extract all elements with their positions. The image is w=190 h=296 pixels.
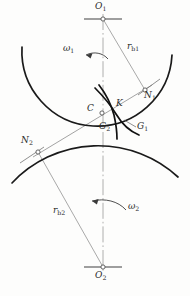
label-g2: G2 <box>99 122 110 131</box>
label-k: K <box>116 99 123 108</box>
omega2-rotation-arrow <box>92 199 126 210</box>
omega1-rotation-arrow <box>86 53 108 59</box>
label-n2: N2 <box>21 136 33 145</box>
label-omega1: ω1 <box>63 44 74 53</box>
point-marker-o1 <box>101 17 105 21</box>
diagram-canvas <box>0 0 190 296</box>
base-radius-lines <box>38 19 145 267</box>
radius-line-rb1 <box>103 19 145 90</box>
label-omega2: ω2 <box>128 202 139 211</box>
label-o1: O1 <box>95 2 106 11</box>
radius-line-rb2 <box>38 152 103 267</box>
label-g1: G1 <box>137 122 148 131</box>
point-marker-n2 <box>36 150 40 154</box>
label-rb1: rb1 <box>127 42 139 51</box>
label-c: C <box>87 104 94 113</box>
label-o2: O2 <box>95 271 106 280</box>
omega2-arrow-head <box>92 199 99 205</box>
gear-involute-diagram: O1 O2 N1 N2 C K G1 G2 rb1 rb2 ω1 ω2 <box>0 0 190 296</box>
point-marker-o2 <box>101 265 105 269</box>
point-marker-c <box>100 111 104 115</box>
label-rb2: rb2 <box>53 206 65 215</box>
label-n1: N1 <box>144 91 156 100</box>
